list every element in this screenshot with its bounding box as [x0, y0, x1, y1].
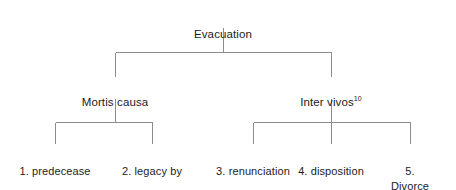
node-branch-mortis-causa-label: Mortis causa — [82, 96, 149, 108]
node-branch-mortis-causa: Mortis causa — [82, 80, 149, 110]
node-leaf-predecease-of-substitute: 1. predecease of substitute — [19, 150, 90, 190]
node-leaf-1-line1: 1. predecease — [19, 164, 90, 178]
node-leaf-3-line1: 3. renunciation — [216, 164, 290, 178]
node-leaf-disposition-by-institute: 4. disposition by institute — [298, 150, 364, 190]
node-branch-inter-vivos: Inter vivos10 — [300, 80, 362, 110]
node-leaf-divorce: 5. Divorce — [387, 150, 433, 190]
tree-diagram: Evacuation Mortis causa Inter vivos10 1.… — [0, 0, 456, 190]
node-leaf-legacy-by-institute: 2. legacy by institute — [122, 150, 182, 190]
node-leaf-2-line1: 2. legacy by — [122, 164, 182, 178]
node-leaf-4-line1: 4. disposition — [298, 164, 364, 178]
node-root-evacuation: Evacuation — [194, 12, 252, 42]
node-root-label: Evacuation — [194, 28, 252, 40]
node-leaf-5-line1: 5. Divorce — [387, 164, 433, 190]
node-branch-inter-vivos-footnote-marker: 10 — [354, 95, 362, 102]
node-branch-inter-vivos-label: Inter vivos — [300, 96, 354, 108]
node-leaf-renunciation-by-substitute: 3. renunciation by substitute — [216, 150, 290, 190]
